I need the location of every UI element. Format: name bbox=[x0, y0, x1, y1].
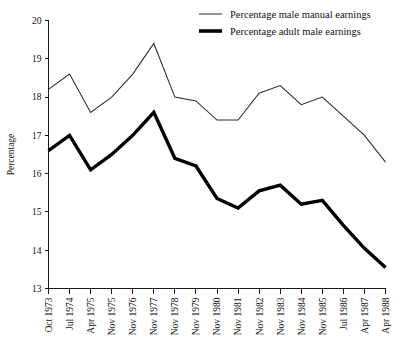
x-tick-label: Nov 1977 bbox=[149, 297, 159, 335]
x-tick-label: Apr 1975 bbox=[86, 297, 96, 333]
x-tick-label: Nov 1979 bbox=[191, 297, 201, 335]
chart-legend: Percentage male manual earningsPercentag… bbox=[199, 9, 371, 37]
y-tick-label: 13 bbox=[32, 284, 42, 294]
y-tick-label: 17 bbox=[32, 131, 42, 141]
y-axis-title: Percentage bbox=[6, 134, 16, 176]
y-tick-label: 15 bbox=[32, 207, 42, 217]
line-chart-figure: 1314151617181920 Oct 1973Jul 1974Apr 197… bbox=[0, 0, 403, 345]
x-tick-label: Apr 1987 bbox=[360, 297, 370, 333]
x-tick-label: Nov 1985 bbox=[318, 297, 328, 335]
x-tick-label: Nov 1983 bbox=[276, 297, 286, 335]
x-tick-label: Nov 1978 bbox=[170, 297, 180, 335]
x-tick-label: Nov 1984 bbox=[297, 297, 307, 335]
x-tick-label: Nov 1981 bbox=[233, 297, 243, 335]
x-tick-label: Jul 1986 bbox=[339, 297, 349, 330]
x-tick-label: Nov 1976 bbox=[128, 297, 138, 335]
y-tick-label: 16 bbox=[32, 169, 42, 179]
x-tick-label: Jul 1974 bbox=[65, 297, 75, 330]
legend-label: Percentage adult male earnings bbox=[230, 26, 361, 37]
x-axis: Oct 1973Jul 1974Apr 1975Nov 1975Nov 1976… bbox=[44, 289, 391, 336]
x-tick-label: Nov 1980 bbox=[212, 297, 222, 335]
y-axis: 1314151617181920 bbox=[32, 16, 49, 294]
series-line-adult-male-earnings bbox=[49, 112, 386, 267]
y-tick-label: 14 bbox=[32, 246, 42, 256]
y-tick-label: 20 bbox=[32, 16, 42, 26]
y-tick-label: 19 bbox=[32, 54, 42, 64]
data-series-group bbox=[49, 43, 386, 267]
legend-label: Percentage male manual earnings bbox=[230, 9, 371, 20]
y-tick-label: 18 bbox=[32, 92, 42, 102]
x-tick-label: Nov 1982 bbox=[255, 297, 265, 335]
chart-canvas: 1314151617181920 Oct 1973Jul 1974Apr 197… bbox=[0, 0, 403, 345]
x-tick-label: Nov 1975 bbox=[107, 297, 117, 335]
x-tick-label: Apr 1988 bbox=[381, 297, 391, 333]
x-tick-label: Oct 1973 bbox=[44, 297, 54, 332]
series-line-male-manual-earnings bbox=[49, 43, 386, 162]
